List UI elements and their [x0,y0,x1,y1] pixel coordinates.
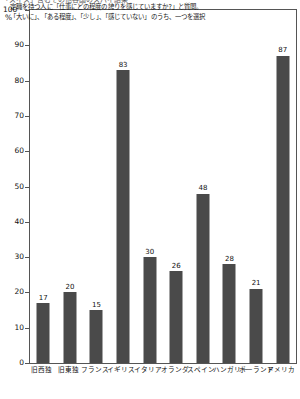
x-axis-label: イタリア [133,366,163,375]
bar-value-label: 20 [65,283,74,291]
bar-slot: 87 [269,10,296,363]
bar [276,56,289,363]
bar-value-label: 48 [198,184,207,192]
bar-value-label: 21 [252,279,261,287]
x-axis-label: オランダ [160,366,190,375]
bar-slot: 20 [57,10,84,363]
bar [63,292,76,363]
bar-slot: 28 [216,10,243,363]
bar-value-label: 28 [225,255,234,263]
y-tick-label-80: 80 [0,77,24,85]
bar-slot: 30 [136,10,163,363]
y-tick-label-40: 40 [0,218,24,226]
y-tick-label-30: 30 [0,253,24,261]
bar-slot: 48 [190,10,217,363]
bar [117,70,130,363]
x-axis-label: ハンガリー [213,366,243,375]
x-axis-label: スペイン [186,366,216,375]
bar-value-label: 30 [145,248,154,256]
bar-value-label: 15 [92,301,101,309]
y-tick-label-70: 70 [0,112,24,120]
bar-slot: 17 [30,10,57,363]
bar-value-label: 83 [119,61,128,69]
y-tick-label-60: 60 [0,147,24,155]
bar-value-label: 87 [278,46,287,54]
bar-slot: 83 [110,10,137,363]
bar [90,310,103,363]
x-axis-label: 旧西独 [27,366,57,375]
y-tick-label-0: 0 [0,359,24,367]
bar [170,271,183,363]
x-axis-labels: 旧西独旧東独フランスイギリスイタリアオランダスペインハンガリーポーランドアメリカ [30,366,296,386]
y-tick-label-20: 20 [0,288,24,296]
bar-slot: 21 [243,10,270,363]
bar-series: 17201583302648282187 [30,10,296,363]
bar [223,264,236,363]
bar-slot: 15 [83,10,110,363]
y-tick-label-10: 10 [0,324,24,332]
y-tick-label-50: 50 [0,183,24,191]
bar [250,289,263,363]
bar [143,257,156,363]
bar-slot: 26 [163,10,190,363]
y-tick-label-90: 90 [0,41,24,49]
bar [37,303,50,363]
x-axis-label: フランス [80,366,110,375]
x-axis-label: イギリス [106,366,136,375]
bar [196,194,209,363]
bar-value-label: 17 [39,294,48,302]
bar-value-label: 26 [172,262,181,270]
x-axis-label: 旧東独 [53,366,83,375]
x-axis-label: ポーランド [239,366,269,375]
x-axis-label: アメリカ [266,366,296,375]
